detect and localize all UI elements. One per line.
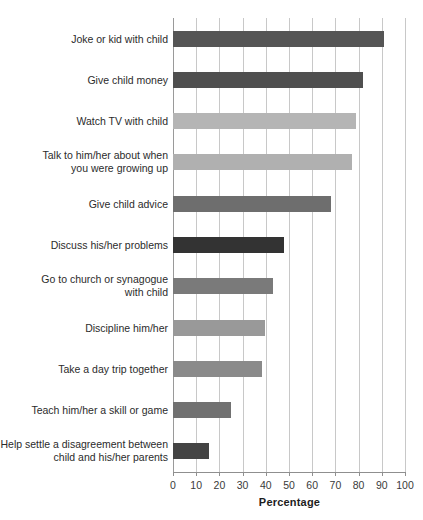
category-label: Give child advice (0, 197, 168, 210)
bar-row: Take a day trip together (0, 348, 423, 389)
bar-row: Joke or kid with child (0, 18, 423, 59)
bar (173, 154, 352, 170)
tick-label-10: 10 (190, 479, 202, 491)
bar (173, 361, 262, 377)
category-label: Talk to him/her about when you were grow… (0, 150, 168, 175)
tick-mark-50 (289, 472, 290, 476)
tick-label-20: 20 (214, 479, 226, 491)
category-label: Discipline him/her (0, 321, 168, 334)
tick-mark-30 (243, 472, 244, 476)
tick-label-30: 30 (237, 479, 249, 491)
bar-row: Go to church or synagogue with child (0, 266, 423, 307)
bar-fill (173, 361, 262, 377)
category-label: Joke or kid with child (0, 32, 168, 45)
x-axis-title: Percentage (173, 496, 406, 508)
bar (173, 237, 284, 253)
bar (173, 72, 363, 88)
bar (173, 443, 209, 459)
bar-fill (173, 320, 265, 336)
tick-mark-40 (266, 472, 267, 476)
tick-label-40: 40 (260, 479, 272, 491)
bar (173, 196, 331, 212)
bar-fill (173, 113, 356, 129)
bar (173, 320, 265, 336)
tick-mark-100 (405, 472, 406, 476)
category-label: Watch TV with child (0, 115, 168, 128)
bar (173, 278, 273, 294)
bar-chart: Joke or kid with childGive child moneyWa… (0, 0, 423, 520)
bar-row: Talk to him/her about when you were grow… (0, 142, 423, 183)
bar-fill (173, 237, 284, 253)
bar-fill (173, 278, 273, 294)
tick-label-50: 50 (283, 479, 295, 491)
tick-label-100: 100 (396, 479, 414, 491)
tick-label-80: 80 (353, 479, 365, 491)
bar-row: Give child money (0, 59, 423, 100)
category-label: Take a day trip together (0, 363, 168, 376)
tick-label-90: 90 (376, 479, 388, 491)
tick-mark-10 (196, 472, 197, 476)
tick-mark-90 (382, 472, 383, 476)
bar-fill (173, 196, 331, 212)
category-label: Discuss his/her problems (0, 239, 168, 252)
bar-fill (173, 154, 352, 170)
bar-row: Help settle a disagreement between child… (0, 431, 423, 472)
tick-label-60: 60 (306, 479, 318, 491)
bar (173, 31, 384, 47)
bar-fill (173, 31, 384, 47)
bar (173, 113, 356, 129)
tick-mark-70 (335, 472, 336, 476)
bar-fill (173, 72, 363, 88)
tick-mark-60 (312, 472, 313, 476)
bar-fill (173, 443, 209, 459)
bar-row: Discuss his/her problems (0, 224, 423, 265)
tick-mark-80 (359, 472, 360, 476)
bar-row: Give child advice (0, 183, 423, 224)
tick-mark-0 (173, 472, 174, 476)
tick-label-70: 70 (330, 479, 342, 491)
category-label: Help settle a disagreement between child… (0, 439, 168, 464)
bar-row: Watch TV with child (0, 101, 423, 142)
bar (173, 402, 231, 418)
category-label: Give child money (0, 74, 168, 87)
bar-row: Discipline him/her (0, 307, 423, 348)
bar-fill (173, 402, 231, 418)
bar-row: Teach him/her a skill or game (0, 389, 423, 430)
category-label: Go to church or synagogue with child (0, 274, 168, 299)
category-label: Teach him/her a skill or game (0, 404, 168, 417)
tick-label-0: 0 (170, 479, 176, 491)
tick-mark-20 (219, 472, 220, 476)
